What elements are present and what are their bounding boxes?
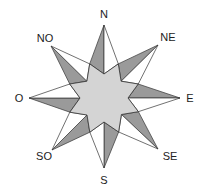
label-s: S (100, 175, 107, 186)
compass-rose (0, 0, 204, 194)
label-so: SO (36, 151, 52, 162)
label-no: NO (37, 33, 54, 44)
label-se: SE (163, 151, 178, 162)
label-n: N (100, 9, 108, 20)
label-ne: NE (160, 32, 175, 43)
label-e: E (186, 93, 193, 104)
label-o: O (15, 93, 24, 104)
